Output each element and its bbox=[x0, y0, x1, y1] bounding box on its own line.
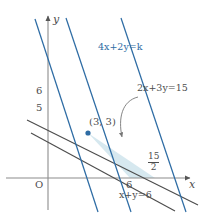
origin-label: O bbox=[35, 180, 43, 190]
figure-canvas: y x O 6 5 6 15 2 4x+2y=k 2x+3y=15 x+y=6 … bbox=[0, 0, 205, 217]
x-axis-label: x bbox=[189, 179, 195, 190]
fraction-denominator: 2 bbox=[148, 163, 159, 172]
label-constraint-xy6: x+y=6 bbox=[119, 190, 152, 200]
y-tick-6: 6 bbox=[36, 86, 42, 96]
y-axis-label: y bbox=[53, 14, 59, 25]
label-vertex-point: (3, 3) bbox=[89, 117, 116, 127]
vertex-dot bbox=[85, 130, 90, 135]
fraction-numerator: 15 bbox=[148, 152, 159, 161]
y-tick-5: 5 bbox=[36, 103, 42, 113]
callout-arrow bbox=[121, 97, 138, 137]
x-tick-fifteen-halves: 15 2 bbox=[148, 152, 159, 173]
label-constraint-2x3y15: 2x+3y=15 bbox=[137, 83, 188, 93]
label-objective-equation: 4x+2y=k bbox=[98, 42, 143, 52]
graph-svg bbox=[0, 0, 205, 217]
line-2x-plus-3y-15 bbox=[27, 120, 198, 205]
